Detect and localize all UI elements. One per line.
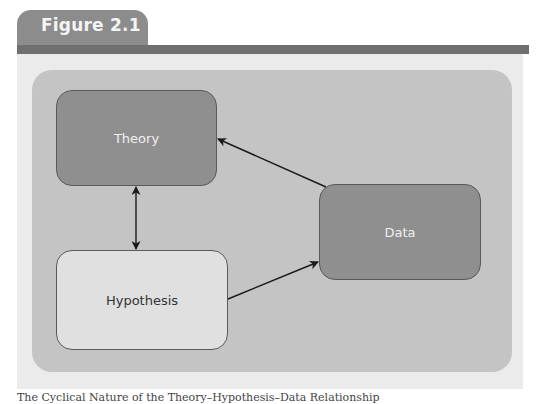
node-theory: Theory: [56, 90, 217, 186]
figure-tab: Figure 2.1: [17, 10, 148, 48]
node-hypothesis: Hypothesis: [56, 250, 228, 350]
node-data: Data: [319, 184, 481, 280]
figure-header-bar: [17, 45, 529, 54]
node-theory-label: Theory: [114, 131, 159, 146]
node-hypothesis-label: Hypothesis: [106, 293, 178, 308]
figure-title: Figure 2.1: [41, 15, 141, 35]
figure-caption: The Cyclical Nature of the Theory–Hypoth…: [17, 391, 380, 404]
node-data-label: Data: [384, 225, 415, 240]
